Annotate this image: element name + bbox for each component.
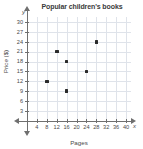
- x-axis-tick-mark: [47, 119, 48, 123]
- x-axis-tick-mark: [96, 119, 97, 123]
- x-axis-tick-mark: [106, 119, 107, 123]
- data-point: [85, 70, 89, 74]
- y-axis-tick-mark: [25, 91, 29, 92]
- x-axis-tick-mark: [86, 119, 87, 123]
- y-axis-tick-label: 3: [9, 108, 23, 114]
- gridline-horizontal: [27, 42, 131, 43]
- data-point: [65, 60, 69, 64]
- y-axis-tick-labels: 36912151821242730: [6, 0, 23, 149]
- y-axis-tick-label: 9: [9, 88, 23, 94]
- data-point: [65, 89, 69, 93]
- y-axis-tick-mark: [25, 32, 29, 33]
- y-axis-arrow-down-icon: [24, 131, 30, 136]
- x-axis-tick-mark: [126, 119, 127, 123]
- gridline-horizontal: [27, 71, 131, 72]
- x-axis-tick-mark: [116, 119, 117, 123]
- x-axis-line: [19, 121, 131, 122]
- y-axis-tick-mark: [25, 62, 29, 63]
- y-axis-arrow-up-icon: [24, 6, 30, 11]
- plot-area: [27, 17, 131, 121]
- gridline-horizontal: [27, 101, 131, 102]
- y-axis-title: Price ($): [2, 41, 9, 83]
- x-axis-title: Pages: [27, 139, 131, 146]
- y-axis-tick-label: 27: [9, 29, 23, 35]
- y-axis-tick-label: 21: [9, 48, 23, 54]
- y-axis-tick-label: 24: [9, 39, 23, 45]
- x-axis-variable-letter: x: [133, 123, 136, 129]
- x-axis-tick-mark: [77, 119, 78, 123]
- y-axis-tick-mark: [25, 71, 29, 72]
- x-axis-tick-mark: [37, 119, 38, 123]
- gridline-horizontal: [27, 91, 131, 92]
- gridline-horizontal: [27, 62, 131, 63]
- y-axis-tick-label: 30: [9, 19, 23, 25]
- y-axis-tick-mark: [25, 52, 29, 53]
- y-axis-tick-mark: [25, 111, 29, 112]
- y-axis-tick-mark: [25, 101, 29, 102]
- scatter-plot-figure: Popular children's books y x 36912151821…: [0, 0, 143, 149]
- y-axis-tick-label: 12: [9, 78, 23, 84]
- gridline-horizontal: [27, 111, 131, 112]
- x-axis-tick-mark: [57, 119, 58, 123]
- y-axis-tick-label: 18: [9, 58, 23, 64]
- x-axis-tick-label: 40: [119, 124, 133, 130]
- y-axis-tick-mark: [25, 22, 29, 23]
- data-point: [55, 50, 59, 54]
- data-point: [45, 80, 49, 84]
- chart-title: Popular children's books: [26, 2, 138, 11]
- gridline-horizontal: [27, 22, 131, 23]
- y-axis-tick-mark: [25, 42, 29, 43]
- gridline-horizontal: [27, 32, 131, 33]
- data-point: [95, 40, 99, 44]
- y-axis-tick-label: 6: [9, 98, 23, 104]
- gridline-horizontal: [27, 52, 131, 53]
- y-axis-tick-mark: [25, 81, 29, 82]
- y-axis-tick-label: 15: [9, 68, 23, 74]
- x-axis-tick-mark: [67, 119, 68, 123]
- gridline-horizontal: [27, 81, 131, 82]
